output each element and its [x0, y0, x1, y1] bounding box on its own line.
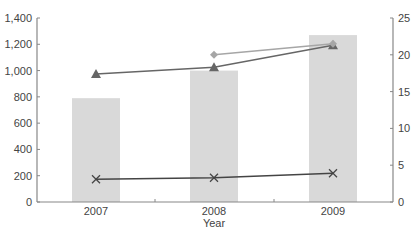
left-tick-label: 1,000 [4, 65, 32, 77]
x-tick-label: 2009 [321, 205, 345, 217]
combo-chart: 02004006008001,0001,2001,400051015202520… [0, 0, 416, 238]
left-tick-label: 1,400 [4, 12, 32, 24]
diamond-marker [210, 51, 218, 59]
left-tick-label: 200 [14, 170, 32, 182]
left-tick-label: 400 [14, 143, 32, 155]
right-tick-label: 0 [398, 196, 404, 208]
left-tick-label: 1,200 [4, 38, 32, 50]
right-tick-label: 10 [398, 122, 410, 134]
x-tick-label: 2007 [84, 205, 108, 217]
right-tick-label: 25 [398, 12, 410, 24]
right-tick-label: 5 [398, 159, 404, 171]
bar-2008 [190, 71, 238, 202]
left-tick-label: 600 [14, 117, 32, 129]
left-tick-label: 800 [14, 91, 32, 103]
bar-2007 [72, 98, 120, 202]
bar-2009 [309, 35, 357, 202]
x-tick-label: 2008 [202, 205, 226, 217]
right-tick-label: 15 [398, 86, 410, 98]
x-axis-title: Year [203, 217, 226, 229]
right-tick-label: 20 [398, 49, 410, 61]
left-tick-label: 0 [26, 196, 32, 208]
